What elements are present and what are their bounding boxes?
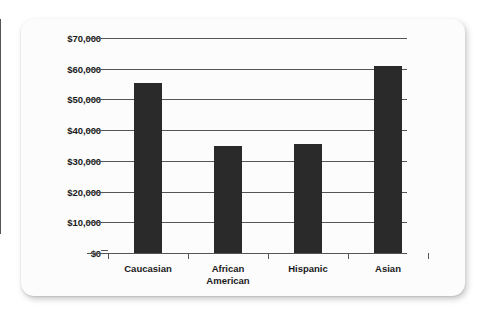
origin-tick: [101, 250, 108, 251]
bar: [374, 66, 402, 253]
y-axis-tick: [101, 161, 108, 162]
x-axis-tick: [268, 253, 269, 259]
x-axis-category-label: Asian: [348, 263, 428, 275]
x-axis-tick: [108, 253, 109, 259]
x-axis-category-label: Hispanic: [268, 263, 348, 275]
y-axis-line: [0, 19, 1, 234]
x-axis-tick: [188, 253, 189, 259]
chart-page: $0$10,000$20,000$30,000$40,000$50,000$60…: [0, 0, 485, 317]
bar: [134, 83, 162, 253]
bar: [214, 146, 242, 254]
y-axis-tick: [101, 130, 108, 131]
bar: [294, 144, 322, 253]
y-axis-tick: [101, 192, 108, 193]
x-axis-labels: CaucasianAfricanAmericanHispanicAsian: [108, 263, 428, 303]
x-axis-category-label: Caucasian: [108, 263, 188, 275]
x-axis-line: [87, 253, 407, 254]
y-axis-tick: [101, 253, 108, 254]
y-axis-tick: [101, 99, 108, 100]
bar-series: [108, 38, 428, 253]
x-axis-tick: [348, 253, 349, 259]
x-axis-category-label: AfricanAmerican: [188, 263, 268, 286]
y-axis-tick: [101, 69, 108, 70]
x-axis-tick: [428, 253, 429, 259]
y-axis-tick: [101, 222, 108, 223]
y-axis-tick: [101, 38, 108, 39]
